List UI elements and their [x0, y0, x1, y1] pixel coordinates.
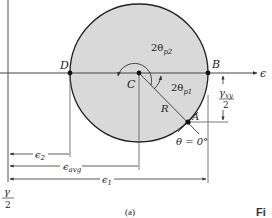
label-eps-avg: ϵavg — [63, 161, 82, 174]
label-theta-zero: θ = 0° — [176, 136, 208, 147]
point-b — [206, 71, 211, 76]
label-gamma-xy: γxy — [219, 87, 234, 100]
label-eps2: ϵ2 — [35, 149, 46, 162]
mohr-circle-figure: D B C A R ϵ 2θp2 2θp1 θ = 0° γxy 2 ϵ2 ϵa… — [0, 0, 272, 218]
label-c: C — [127, 78, 136, 91]
label-a: A — [191, 111, 199, 122]
figure-tag: Fi — [256, 206, 266, 218]
caption: (a) — [125, 207, 135, 217]
point-a — [185, 119, 190, 124]
label-d: D — [59, 59, 69, 72]
label-epsilon-axis: ϵ — [260, 67, 266, 80]
label-b: B — [211, 58, 220, 71]
label-gamma-axis-den: 2 — [5, 200, 11, 210]
label-eps1: ϵ1 — [102, 174, 112, 187]
point-c — [137, 71, 142, 76]
label-gamma-xy-den: 2 — [223, 100, 229, 110]
label-r: R — [160, 103, 169, 114]
label-gamma-axis-num: γ — [4, 186, 10, 197]
